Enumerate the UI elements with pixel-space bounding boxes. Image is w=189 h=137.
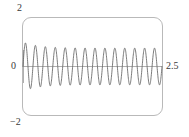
y-axis-zero-label: 0 <box>11 61 16 71</box>
oscillation-curve <box>23 43 162 89</box>
y-axis-max-label: 2 <box>17 3 22 13</box>
plot-figure: 2 0 −2 2.5 <box>0 0 189 137</box>
plot-curve-layer <box>0 0 189 137</box>
y-axis-min-label: −2 <box>10 117 21 127</box>
x-axis-max-label: 2.5 <box>166 61 179 71</box>
